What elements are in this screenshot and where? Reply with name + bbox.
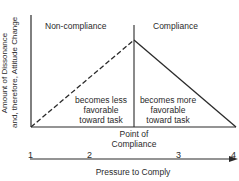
right-region-line2: favorable (136, 105, 200, 115)
right-region-description: becomes more favorable toward task (136, 95, 200, 125)
point-of-compliance-label: Point of Compliance (100, 129, 168, 149)
dissonance-diagram (0, 0, 239, 181)
left-region-line3: toward task (69, 115, 133, 125)
y-axis-label-line1: Amount of Dissonance (0, 18, 10, 128)
scale-tick-3: 3 (176, 150, 181, 160)
left-region-description: becomes less favorable toward task (69, 95, 133, 125)
non-compliance-title: Non-compliance (45, 21, 106, 31)
point-label-line2: Compliance (100, 139, 168, 149)
right-region-line3: toward task (136, 115, 200, 125)
left-region-line1: becomes less (69, 95, 133, 105)
scale-tick-4: 4 (231, 150, 236, 160)
scale-tick-2: 2 (87, 150, 92, 160)
y-axis-label: Amount of Dissonance and, therefore, Att… (0, 18, 22, 128)
y-axis-label-line2: and, therefore, Attitude Change (10, 18, 20, 128)
x-axis-label: Pressure to Comply (83, 167, 183, 177)
compliance-title: Compliance (153, 21, 198, 31)
left-region-line2: favorable (69, 105, 133, 115)
scale-tick-1: 1 (28, 150, 33, 160)
right-region-line1: becomes more (136, 95, 200, 105)
point-label-line1: Point of (100, 129, 168, 139)
